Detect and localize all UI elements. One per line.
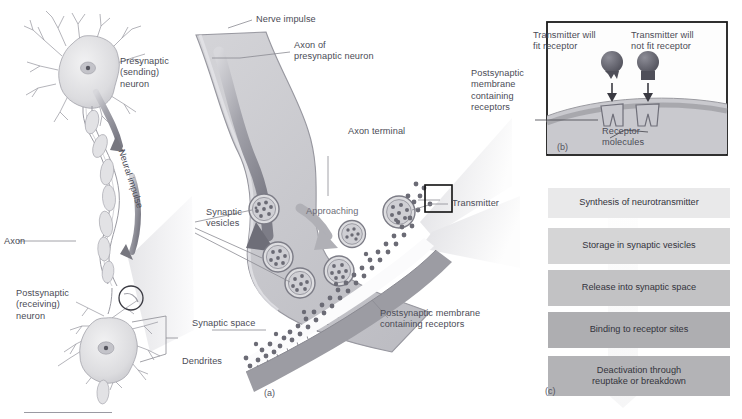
label-axon-terminal: Axon terminal (348, 126, 405, 137)
label-dendrites: Dendrites (182, 356, 222, 367)
label-axon-of-presynaptic-neuron: Axon of presynaptic neuron (294, 40, 374, 63)
label-transmitter-will-not-fit: Transmitter will not fit receptor (631, 30, 694, 53)
label-postsynaptic-membrane: Postsynaptic membrane containing recepto… (380, 308, 480, 331)
label-receptor-molecules: Receptor molecules (602, 126, 644, 149)
flowchart-step-label: Storage in synaptic vesicles (582, 240, 695, 251)
flowchart-step-5: Deactivation through reuptake or breakdo… (548, 356, 730, 396)
label-postsynaptic-neuron: Postsynaptic (receiving) neuron (16, 288, 69, 322)
myelin-sheath (83, 109, 116, 284)
label-synaptic-vesicles: Synaptic vesicles (206, 207, 242, 230)
flowchart-step-label: Synthesis of neurotransmitter (579, 197, 699, 208)
presynaptic-neuron (24, 11, 145, 286)
label-postsynaptic-membrane-b: Postsynaptic membrane containing recepto… (471, 68, 524, 114)
panel-tag-c: (c) (545, 386, 556, 396)
flowchart-step-label: Deactivation through reuptake or breakdo… (592, 365, 686, 387)
flowchart-step-4: Binding to receptor sites (548, 312, 730, 348)
flowchart-step-2: Storage in synaptic vesicles (548, 228, 730, 264)
flowchart-step-label: Release into synaptic space (582, 282, 696, 293)
label-nerve-impulse: Nerve impulse (256, 14, 316, 25)
flowchart-step-3: Release into synaptic space (548, 270, 730, 306)
flowchart-step-label: Binding to receptor sites (590, 324, 689, 335)
label-transmitter-will-fit: Transmitter will fit receptor (533, 30, 596, 53)
panel-tag-a: (a) (264, 388, 275, 398)
label-synaptic-space: Synaptic space (192, 318, 255, 329)
figure-canvas: Presynaptic (sending) neuron Axon Neural… (0, 0, 742, 419)
panel-tag-b: (b) (557, 142, 568, 152)
footer-rule (24, 412, 112, 413)
label-presynaptic-neuron: Presynaptic (sending) neuron (120, 56, 169, 90)
label-transmitter: Transmitter (452, 198, 499, 209)
flowchart-step-1: Synthesis of neurotransmitter (548, 188, 730, 218)
label-approaching: Approaching (306, 206, 358, 217)
label-axon: Axon (4, 236, 25, 247)
